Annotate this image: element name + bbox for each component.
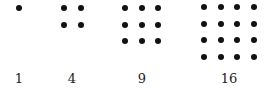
label-9: 9 <box>138 71 146 86</box>
dot <box>155 38 161 44</box>
dot <box>139 38 145 44</box>
dot <box>218 21 224 27</box>
dot <box>251 54 257 60</box>
dot <box>234 4 240 10</box>
dot <box>122 22 128 28</box>
dot <box>251 37 257 43</box>
dot <box>139 22 145 28</box>
dot <box>201 37 207 43</box>
dot <box>155 22 161 28</box>
dot <box>201 54 207 60</box>
dot <box>218 4 224 10</box>
dot <box>16 5 22 11</box>
dot <box>218 54 224 60</box>
dot <box>201 4 207 10</box>
dot <box>61 22 67 28</box>
dot <box>61 5 67 11</box>
dot <box>122 5 128 11</box>
dot <box>122 38 128 44</box>
dot <box>218 37 224 43</box>
label-16: 16 <box>221 71 238 86</box>
label-1: 1 <box>15 71 23 86</box>
dot <box>201 21 207 27</box>
dot <box>251 4 257 10</box>
dot <box>251 21 257 27</box>
dot <box>78 5 84 11</box>
label-4: 4 <box>68 71 76 86</box>
dot <box>139 5 145 11</box>
dot <box>78 22 84 28</box>
dot <box>234 54 240 60</box>
dot <box>234 37 240 43</box>
dot <box>234 21 240 27</box>
dot <box>155 5 161 11</box>
